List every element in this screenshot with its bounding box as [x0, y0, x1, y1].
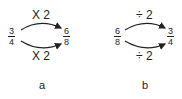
panel-label-b: b [142, 80, 148, 91]
denominator: 8 [115, 38, 120, 46]
panel-label-a: a [39, 80, 45, 91]
end-fraction-a: 6 8 [63, 27, 70, 46]
bottom-arrow-b [125, 41, 165, 48]
top-arrow-b [125, 23, 165, 30]
denominator: 4 [9, 38, 14, 46]
bottom-arrow-a [21, 41, 61, 48]
top-operation-b: ÷ 2 [136, 9, 153, 21]
denominator: 4 [168, 38, 173, 46]
start-fraction-b: 6 8 [114, 27, 121, 46]
end-fraction-b: 3 4 [167, 27, 174, 46]
numerator: 6 [115, 27, 120, 35]
bottom-operation-a: X 2 [32, 50, 50, 62]
bottom-operation-b: ÷ 2 [136, 50, 153, 62]
start-fraction-a: 3 4 [8, 27, 15, 46]
numerator: 6 [64, 27, 69, 35]
top-operation-a: X 2 [32, 9, 50, 21]
numerator: 3 [168, 27, 173, 35]
arrows-layer [0, 0, 182, 99]
top-arrow-a [21, 23, 61, 30]
denominator: 8 [64, 38, 69, 46]
numerator: 3 [9, 27, 14, 35]
